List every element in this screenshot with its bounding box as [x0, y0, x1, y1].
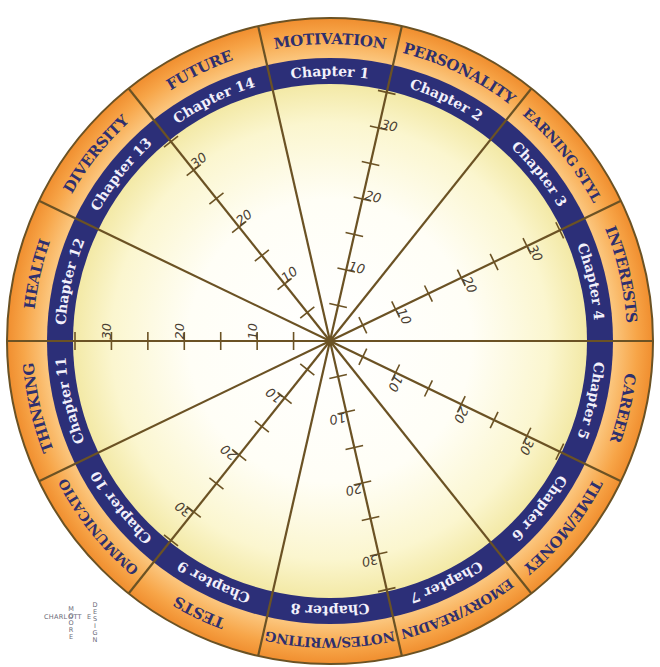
chapter-wheel-diagram: 1020301020301020301020301020301020301020…: [0, 0, 660, 667]
designer-credit: CHARL MOORE OTT E DESIGN: [44, 602, 104, 646]
credit-first: CHARL: [44, 613, 68, 621]
credit-last: E: [87, 613, 91, 621]
credit-middle-vertical: MOORE: [68, 606, 74, 641]
center-hub: [326, 337, 334, 345]
scale-label-20: 20: [172, 323, 187, 340]
credit-shared: OTT: [68, 613, 82, 621]
scale-label-30: 30: [99, 323, 114, 340]
credit-first-text: CHARL: [44, 613, 68, 621]
scale-label-10: 10: [245, 323, 260, 340]
credit-right-vertical: DESIGN: [92, 602, 98, 644]
